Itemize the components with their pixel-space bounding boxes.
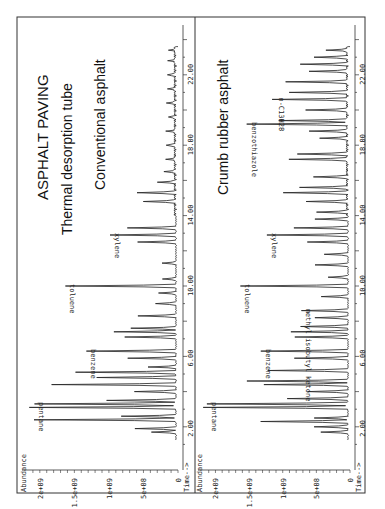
time-tick-label: 6.00 [187, 350, 195, 367]
upper-panel-title: Conventional asphalt [92, 59, 108, 190]
time-tick-label: 14.00 [187, 205, 195, 226]
abundance-axis-label: Abundance [20, 454, 28, 492]
time-tick-label: 18.00 [359, 134, 367, 155]
time-tick-label: 18.00 [187, 134, 195, 155]
time-tick-label: 22.00 [359, 64, 367, 85]
abundance-tick-label: 2e+09 [37, 478, 45, 499]
abundance-tick-label: 0 [175, 478, 183, 482]
time-tick-label: 22.00 [187, 64, 195, 85]
abundance-axis-label: Abundance [196, 454, 204, 492]
figure-subtitle: Thermal desorption tube [59, 83, 75, 235]
time-tick-label: 2.00 [187, 420, 195, 437]
peak-label: pentane [37, 402, 45, 432]
peak-label: benzene [264, 349, 272, 379]
peak-label: toluene [243, 284, 251, 314]
peak-label: methyl isobutyl ketone [304, 309, 312, 402]
abundance-tick-label: 5e+08 [140, 478, 148, 499]
chromatogram-figure: 2.006.0010.0014.0018.0022.0005e+081e+091… [0, 0, 385, 509]
time-axis-label: Time--> [355, 462, 363, 492]
abundance-tick-label: 1.5e+09 [246, 478, 254, 508]
peak-label: n-C13H28 [277, 97, 285, 131]
peak-label: xylene [113, 233, 121, 258]
peak-label: pentane [210, 402, 218, 432]
time-tick-label: 6.00 [359, 350, 367, 367]
peak-label: xylene [270, 233, 278, 258]
lower-panel-title: Crumb rubber asphalt [215, 59, 231, 195]
abundance-tick-label: 0 [347, 478, 355, 482]
peak-label: benzene [89, 349, 97, 379]
peak-label: benzothiazole [250, 122, 258, 177]
time-tick-label: 2.00 [359, 420, 367, 437]
time-tick-label: 10.00 [187, 275, 195, 296]
time-axis-label: Time--> [183, 462, 191, 492]
time-tick-label: 10.00 [359, 275, 367, 296]
abundance-tick-label: 2e+09 [212, 478, 220, 499]
chromatogram-svg: 2.006.0010.0014.0018.0022.0005e+081e+091… [0, 0, 385, 509]
abundance-tick-label: 1e+09 [280, 478, 288, 499]
abundance-tick-label: 5e+08 [313, 478, 321, 499]
figure-title: ASPHALT PAVING [34, 74, 51, 200]
time-tick-label: 14.00 [359, 205, 367, 226]
abundance-tick-label: 1e+09 [106, 478, 114, 499]
abundance-tick-label: 1.5e+09 [71, 478, 79, 508]
peak-label: toluene [68, 284, 76, 314]
